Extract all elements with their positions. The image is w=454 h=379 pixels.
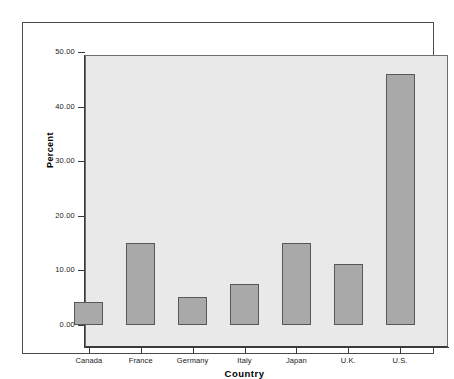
y-axis-tick xyxy=(78,107,85,108)
y-axis-tick xyxy=(78,52,85,53)
x-axis-tick-label: Canada xyxy=(63,356,115,365)
chart-frame: 0.0010.0020.0030.0040.0050.00 Percent Ca… xyxy=(22,22,434,354)
x-axis-tick-label: U.K. xyxy=(322,356,374,365)
y-axis-tick xyxy=(78,325,85,326)
x-axis-tick xyxy=(296,348,297,354)
x-axis-tick-label: Germany xyxy=(167,356,219,365)
y-axis-tick xyxy=(78,270,85,271)
x-axis-tick xyxy=(400,348,401,354)
x-axis-tick xyxy=(141,348,142,354)
bar xyxy=(334,264,363,325)
x-axis-tick-label: U.S. xyxy=(374,356,426,365)
bar xyxy=(178,297,207,325)
y-axis-tick-label: 0.00 xyxy=(41,320,75,329)
y-axis-tick-label: 20.00 xyxy=(41,211,75,220)
x-axis-tick xyxy=(348,348,349,354)
bar xyxy=(74,302,103,325)
bar xyxy=(230,284,259,325)
bar xyxy=(282,243,311,325)
y-axis-tick xyxy=(78,216,85,217)
y-axis-title: Percent xyxy=(45,132,55,168)
y-axis-tick-label: 10.00 xyxy=(41,265,75,274)
x-axis-tick xyxy=(245,348,246,354)
x-axis-tick xyxy=(193,348,194,354)
y-axis-tick xyxy=(78,161,85,162)
y-axis-tick-label: 50.00 xyxy=(41,47,75,56)
bar xyxy=(386,74,415,325)
y-axis-tick-label: 40.00 xyxy=(41,102,75,111)
x-axis-tick-label: Italy xyxy=(219,356,271,365)
x-axis-tick-label: France xyxy=(115,356,167,365)
x-axis-line xyxy=(84,347,449,348)
x-axis-tick-label: Japan xyxy=(270,356,322,365)
bar xyxy=(126,243,155,325)
x-axis-title: Country xyxy=(63,368,426,379)
x-axis-tick xyxy=(89,348,90,354)
